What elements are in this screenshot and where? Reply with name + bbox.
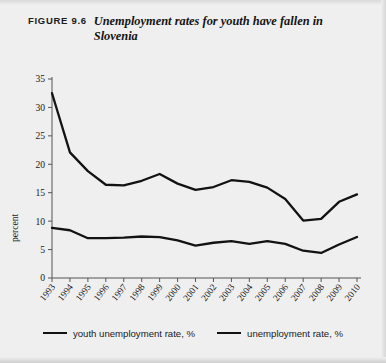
x-axis-tick-label: 1999 [145,282,165,303]
y-axis-tick-label: 25 [35,130,45,141]
legend-line-swatch-youth [43,332,67,334]
x-axis-tick-label: 2008 [307,282,327,303]
line-chart: 05101520253035 1993199419951996199719981… [0,60,386,305]
x-axis-tick-label: 2000 [163,282,183,303]
x-axis-tick-label: 2009 [325,282,345,303]
x-axis-tick-label: 1997 [110,282,130,303]
y-axis-tick-label: 5 [40,244,45,255]
x-axis-tick-label: 2006 [271,282,291,303]
y-axis-tick-label: 30 [35,102,45,113]
y-axis-tick-label: 10 [35,216,45,227]
page-edge-bottom [0,357,386,363]
figure-number: FIGURE 9.6 [28,14,87,26]
x-axis-tick-label: 1996 [92,282,112,303]
figure-container: FIGURE 9.6 Unemployment rates for youth … [0,0,386,363]
x-axis: 1993199419951996199719981999200020012002… [38,278,363,303]
page-edge-top [0,0,386,5]
series-line-total [52,228,357,253]
figure-caption: FIGURE 9.6 Unemployment rates for youth … [28,14,368,44]
x-axis-tick-label: 2007 [289,282,309,303]
legend-label-youth: youth unemployment rate, % [73,328,195,339]
x-axis-tick-label: 1993 [38,282,58,303]
x-axis-tick-label: 1995 [74,282,94,303]
chart-series-group [52,93,357,253]
legend-item-youth: youth unemployment rate, % [43,328,195,339]
legend-item-total: unemployment rate, % [217,328,343,339]
y-axis-tick-label: 15 [35,187,45,198]
legend-label-total: unemployment rate, % [247,328,343,339]
x-axis-tick-label: 2005 [253,282,273,303]
x-axis-tick-label: 2004 [235,282,255,303]
x-axis-tick-label: 2001 [181,282,201,303]
x-axis-tick-label: 1994 [56,282,76,303]
y-axis: 05101520253035 [35,73,52,283]
x-axis-tick-label: 2003 [217,282,237,303]
chart-plot-area: 05101520253035 1993199419951996199719981… [0,60,386,305]
x-axis-tick-label: 1998 [127,282,147,303]
y-axis-tick-label: 0 [40,272,45,283]
chart-legend: youth unemployment rate, % unemployment … [0,322,386,344]
y-axis-tick-label: 20 [35,159,45,170]
x-axis-tick-label: 2010 [343,282,363,303]
y-axis-tick-label: 35 [35,73,45,84]
x-axis-tick-label: 2002 [199,282,219,303]
legend-line-swatch-total [217,332,241,334]
series-line-youth [52,93,357,220]
y-axis-title: percent [9,214,20,243]
page-title: Unemployment rates for youth have fallen… [94,14,368,44]
